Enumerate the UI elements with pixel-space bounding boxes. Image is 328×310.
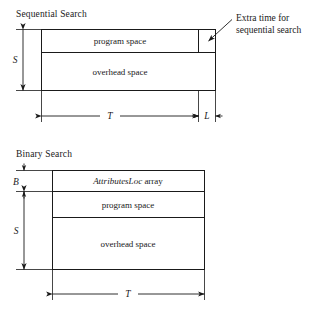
- diagram-canvas: Sequential Search program space overhead…: [0, 0, 328, 310]
- binary-program-space-label: program space: [102, 200, 155, 210]
- sequential-overhead-space-label: overhead space: [92, 67, 147, 77]
- section-label-binary: Binary Search: [16, 149, 72, 159]
- section-label-sequential: Sequential Search: [16, 9, 87, 19]
- binary-overhead-space-label: overhead space: [100, 239, 155, 249]
- sequential-S-label: S: [13, 55, 18, 65]
- binary-array-name: AttributesLoc: [92, 176, 142, 186]
- binary-attributesloc-array-label: AttributesLoc array: [92, 176, 163, 186]
- extra-time-callout-line2: sequential search: [236, 25, 301, 35]
- binary-B-label: B: [13, 177, 19, 187]
- binary-array-suffix: array: [142, 176, 163, 186]
- sequential-T-label: T: [107, 111, 113, 121]
- binary-T-label: T: [125, 289, 131, 299]
- extra-time-callout-line1: Extra time for: [236, 13, 290, 23]
- extra-time-callout-arrow: [209, 20, 233, 42]
- sequential-program-space-label: program space: [94, 36, 147, 46]
- memory-layout-diagram: Sequential Search program space overhead…: [0, 0, 328, 310]
- sequential-L-label: L: [203, 111, 209, 121]
- binary-S-label: S: [14, 226, 19, 236]
